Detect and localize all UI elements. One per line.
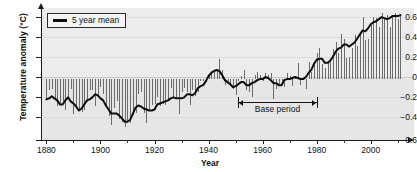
x-tick-minor-1910 bbox=[127, 140, 128, 143]
y-tick-label-0.6: 0.6 bbox=[384, 13, 417, 21]
x-tick-minor-1950 bbox=[236, 140, 237, 143]
x-tick-minor-2010 bbox=[398, 140, 399, 143]
x-axis bbox=[41, 140, 410, 141]
y-axis-arrow-icon bbox=[38, 3, 44, 9]
x-axis-title: Year bbox=[170, 158, 250, 168]
x-tick-1980 bbox=[317, 140, 318, 144]
x-tick-1880 bbox=[46, 140, 47, 144]
x-tick-label-1880: 1880 bbox=[26, 146, 66, 155]
x-tick-label-1980: 1980 bbox=[297, 146, 337, 155]
y-tick-neg0.2 bbox=[36, 97, 41, 98]
base-period-label: Base period bbox=[233, 105, 323, 114]
legend-line-swatch bbox=[53, 19, 67, 22]
y-tick-label-0: 0 bbox=[384, 73, 417, 81]
x-tick-minor-1990 bbox=[344, 140, 345, 143]
base-period-arrowhead-left-icon bbox=[239, 100, 243, 106]
x-tick-label-1900: 1900 bbox=[80, 146, 120, 155]
y-tick-0.2 bbox=[36, 57, 41, 58]
y-tick-label-neg0.4: −0.4 bbox=[384, 113, 417, 121]
y-axis-title: Temperature anomaly (°C) bbox=[18, 0, 28, 137]
y-tick-label-0.4: 0.4 bbox=[384, 33, 417, 41]
x-tick-1920 bbox=[155, 140, 156, 144]
x-tick-minor-1970 bbox=[290, 140, 291, 143]
five-year-mean-polyline bbox=[46, 15, 400, 122]
y-tick-neg0.6 bbox=[36, 140, 41, 141]
legend[interactable]: 5 year mean bbox=[47, 13, 126, 28]
y-tick-0.6 bbox=[36, 17, 41, 18]
x-tick-label-1920: 1920 bbox=[135, 146, 175, 155]
y-tick-label-neg0.2: −0.2 bbox=[384, 93, 417, 101]
base-period-arrow-line bbox=[238, 102, 316, 103]
x-tick-1900 bbox=[100, 140, 101, 144]
base-period-cap-right bbox=[317, 97, 318, 108]
y-tick-label-0.2: 0.2 bbox=[384, 53, 417, 61]
x-tick-label-2000: 2000 bbox=[351, 146, 391, 155]
x-tick-minor-1890 bbox=[73, 140, 74, 143]
x-tick-2000 bbox=[371, 140, 372, 144]
y-tick-0 bbox=[36, 77, 41, 78]
temperature-anomaly-chart: 0.6 0.4 0.2 0 −0.2 −0.4 −0.6 18801900192… bbox=[0, 0, 417, 172]
legend-label-five-year-mean: 5 year mean bbox=[72, 16, 119, 25]
y-axis bbox=[41, 8, 42, 141]
y-tick-0.4 bbox=[36, 37, 41, 38]
x-tick-label-1940: 1940 bbox=[189, 146, 229, 155]
y-tick-neg0.4 bbox=[36, 117, 41, 118]
y-tick-label-neg0.6: −0.6 bbox=[384, 136, 417, 144]
x-tick-minor-1930 bbox=[182, 140, 183, 143]
base-period-arrowhead-right-icon bbox=[312, 100, 316, 106]
x-tick-1960 bbox=[263, 140, 264, 144]
x-tick-label-1960: 1960 bbox=[243, 146, 283, 155]
x-tick-1940 bbox=[209, 140, 210, 144]
